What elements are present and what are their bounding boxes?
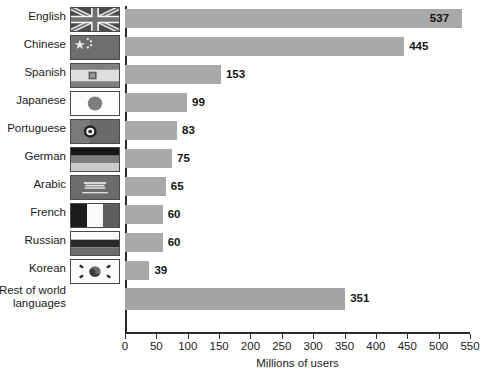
flag-south-korea-icon [70,259,120,284]
bar-chart: English 537Chinese 445Spanish 153Japanes… [0,0,481,375]
bar-value-label: 75 [177,149,190,168]
x-tick-label: 400 [366,340,385,352]
chart-row: Korean 39 [0,258,481,286]
x-tick-label: 350 [335,340,354,352]
category-label: Portuguese [0,122,66,135]
flag-saudi-arabia-icon [70,175,120,200]
x-axis-title: Millions of users [125,357,470,369]
x-tick-label: 250 [272,340,291,352]
x-axis-line [125,332,470,334]
category-label: German [0,150,66,163]
x-tick [156,334,157,339]
x-tick [439,334,440,339]
bar [125,149,172,168]
flag-united-kingdom-icon [70,7,120,32]
flag-france-icon [70,203,120,228]
bar [125,65,221,84]
category-label: Russian [0,234,66,247]
category-label: Japanese [0,94,66,107]
category-label: Chinese [0,38,66,51]
x-tick [407,334,408,339]
category-label: English [0,10,66,23]
chart-row: Rest of world languages351 [0,286,481,314]
category-label: Rest of world languages [0,284,66,310]
bar [125,121,177,140]
bar [125,205,163,224]
x-tick-label: 500 [429,340,448,352]
bar-value-label: 60 [168,205,181,224]
flag-portugal-icon [70,119,120,144]
x-tick [125,334,126,339]
x-tick-label: 550 [460,340,479,352]
x-tick-label: 150 [209,340,228,352]
flag-china-icon [70,35,120,60]
bar [125,9,462,28]
x-tick [282,334,283,339]
x-tick-label: 50 [150,340,163,352]
x-tick [376,334,377,339]
flag-japan-icon [70,91,120,116]
bar-value-label: 39 [154,261,167,280]
x-tick-label: 450 [398,340,417,352]
chart-row: Portuguese 83 [0,118,481,146]
bar-value-label: 351 [350,289,369,308]
flag-germany-icon [70,147,120,172]
x-tick [219,334,220,339]
chart-row: German 75 [0,146,481,174]
flag-spain-icon [70,63,120,88]
chart-row: French 60 [0,202,481,230]
flag-russia-icon [70,231,120,256]
chart-row: Arabic 65 [0,174,481,202]
x-tick-label: 300 [304,340,323,352]
x-tick [188,334,189,339]
category-label: Arabic [0,178,66,191]
x-tick-label: 100 [178,340,197,352]
category-label: Korean [0,262,66,275]
bar [125,288,345,310]
bar [125,93,187,112]
chart-row: Chinese 445 [0,34,481,62]
bar-value-label: 153 [226,65,245,84]
category-label: Spanish [0,66,66,79]
bar-value-label: 537 [430,9,449,28]
bar [125,177,166,196]
category-label: French [0,206,66,219]
chart-row: Japanese 99 [0,90,481,118]
bar-value-label: 60 [168,233,181,252]
x-tick-label: 200 [241,340,260,352]
bar-value-label: 99 [192,93,205,112]
chart-row: English 537 [0,6,481,34]
chart-row: Spanish 153 [0,62,481,90]
x-tick [250,334,251,339]
bar [125,233,163,252]
bar [125,261,149,280]
bar-value-label: 65 [171,177,184,196]
x-tick [313,334,314,339]
bar-value-label: 445 [409,37,428,56]
x-tick-label: 0 [122,340,128,352]
x-tick [470,334,471,339]
bar-value-label: 83 [182,121,195,140]
chart-row: Russian 60 [0,230,481,258]
bar [125,37,404,56]
x-tick [345,334,346,339]
